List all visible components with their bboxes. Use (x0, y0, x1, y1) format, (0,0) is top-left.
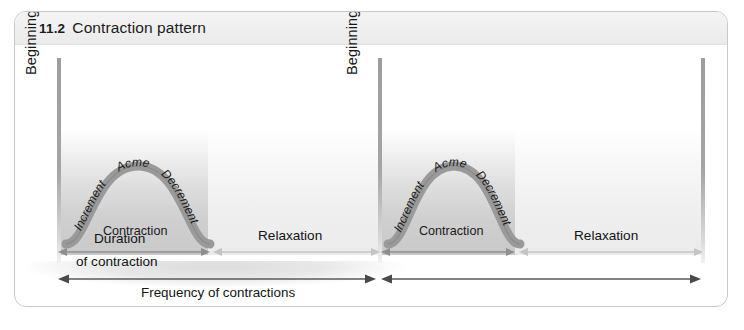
frequency-of-contractions-label: Frequency of contractions (141, 285, 295, 300)
relaxation-arrow-2 (519, 244, 703, 260)
duration-arrow-2 (381, 244, 515, 260)
beginning-of-contraction-label-2: Beginning of contraction (344, 11, 360, 75)
figure-plot-area: Beginning of contraction Beginning of co… (15, 45, 728, 307)
contraction-phase-label-2: Contraction (419, 224, 483, 238)
beginning-of-contraction-label-1: Beginning of contraction (23, 11, 39, 75)
relaxation-label-2: Relaxation (574, 228, 638, 243)
relaxation-arrow-1 (213, 244, 380, 260)
frequency-arrow-2 (381, 271, 701, 287)
figure-title-text: Contraction pattern (72, 19, 206, 36)
figure-title: 11.2Contraction pattern (39, 19, 206, 37)
end-marker-bar (701, 58, 705, 263)
contraction-curve-2: Increment Acme Decrement (381, 140, 527, 258)
relaxation-label-1: Relaxation (258, 228, 322, 243)
figure-number: 11.2 (39, 21, 65, 36)
figure-container: 11.2Contraction pattern Beginning of con… (14, 11, 728, 307)
arc-word-decrement-2: Decrement (473, 168, 514, 229)
duration-label-line1: Duration (94, 231, 145, 246)
duration-label-line2: of contraction (76, 254, 158, 269)
arc-word-decrement-1: Decrement (159, 166, 202, 226)
